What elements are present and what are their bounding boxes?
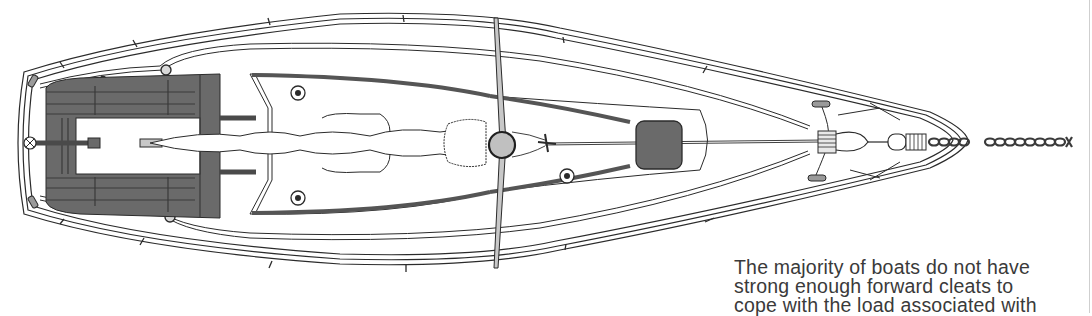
forward-cleats bbox=[808, 101, 900, 181]
mast-cleat bbox=[538, 134, 556, 152]
chain-hook bbox=[888, 134, 926, 150]
fore-hatch bbox=[636, 121, 682, 169]
caption-line: cope with the load associated with bbox=[734, 296, 1092, 315]
anchor-chain bbox=[929, 137, 1072, 147]
caption-text: The majority of boats do not have strong… bbox=[734, 258, 1092, 315]
